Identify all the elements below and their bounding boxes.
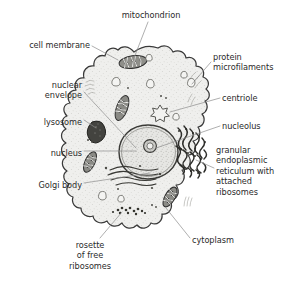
vacuole-3 xyxy=(146,79,154,88)
label-cell-membrane: cell membrane xyxy=(8,40,90,50)
label-protein-microfilaments: protein microfilaments xyxy=(213,52,291,73)
label-nucleus: nucleus xyxy=(14,148,82,158)
leader-cytoplasm xyxy=(166,208,190,238)
vacuole-5 xyxy=(187,78,195,87)
label-nuclear-envelope: nuclear envelope xyxy=(10,80,82,101)
label-mitochondrion: mitochondrion xyxy=(106,10,196,20)
label-rosette-of-free-ribosomes: rosette of free ribosomes xyxy=(52,240,128,271)
label-golgi-body: Golgi body xyxy=(6,180,82,190)
label-granular-er: granular endoplasmic reticulum with atta… xyxy=(216,145,293,197)
cell-diagram: mitochondrion cell membrane protein micr… xyxy=(0,0,293,282)
label-centriole: centriole xyxy=(222,93,292,103)
nucleolus-shape xyxy=(144,140,157,153)
vacuole-4 xyxy=(181,71,187,78)
vacuole-6 xyxy=(173,113,179,120)
vacuole-8 xyxy=(118,195,124,202)
label-lysosome: lysosome xyxy=(8,117,82,127)
vacuole-2 xyxy=(146,54,152,61)
vacuole-7 xyxy=(98,191,106,200)
vacuole-1 xyxy=(112,77,120,86)
label-cytoplasm: cytoplasm xyxy=(192,235,262,245)
label-nucleolus: nucleolus xyxy=(222,121,292,131)
